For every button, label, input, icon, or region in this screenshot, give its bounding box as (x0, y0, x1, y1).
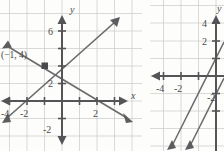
x-tick-label-right-0: -4 (156, 83, 164, 94)
y-tick-label-left-1: 2 (48, 78, 53, 89)
graph-panel-right: -4 -2 4 2 -2 y (150, 0, 224, 151)
x-tick-label-right-1: -2 (174, 83, 182, 94)
x-axis-label-left: x (130, 90, 136, 101)
coordinate-plane-right: -4 -2 4 2 -2 y (150, 0, 224, 151)
x-tick-label-left-0: -4 (1, 108, 9, 119)
y-tick-label-right-2: -2 (207, 92, 215, 103)
y-tick-label-right-0: 4 (202, 18, 207, 29)
x-axis-left (1, 97, 128, 106)
point-annotation-label: (−1, 4) (1, 50, 27, 61)
y-tick-label-left-0: 6 (48, 26, 53, 37)
figure-container: -4 -2 2 6 2 -2 y x (−1, 4) (0, 0, 224, 151)
y-axis-right (212, 15, 221, 151)
graph-panel-left: -4 -2 2 6 2 -2 y x (−1, 4) (0, 0, 142, 151)
y-axis-label-left: y (69, 4, 75, 15)
series-parallel-lower-right (185, 78, 224, 150)
x-tick-label-left-1: -2 (20, 108, 28, 119)
y-axis-label-right: y (216, 3, 222, 14)
x-tick-label-left-2: 2 (93, 108, 98, 119)
x-axis-right (151, 72, 224, 81)
coordinate-plane-left: -4 -2 2 6 2 -2 y x (−1, 4) (0, 0, 142, 151)
y-tick-label-right-1: 2 (202, 36, 207, 47)
intersection-point-marker (42, 63, 49, 70)
y-tick-label-left-2: -2 (43, 124, 51, 135)
